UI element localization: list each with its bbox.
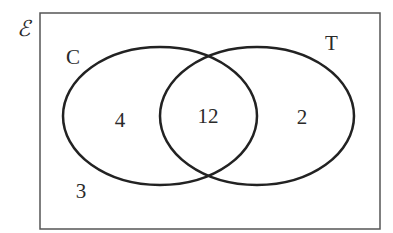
set-c-label: C bbox=[66, 45, 80, 69]
region-only-c-value: 4 bbox=[115, 108, 126, 132]
region-intersection-value: 12 bbox=[198, 104, 219, 128]
region-neither-value: 3 bbox=[76, 179, 87, 203]
set-t-label: T bbox=[325, 31, 338, 55]
venn-diagram: ℰ C T 4 12 2 3 bbox=[0, 0, 393, 233]
region-only-t-value: 2 bbox=[297, 105, 308, 129]
universal-set-symbol: ℰ bbox=[17, 16, 33, 41]
